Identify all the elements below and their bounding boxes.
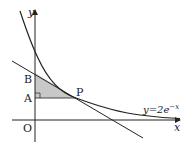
exponential-curve — [20, 11, 180, 119]
point-a-label: A — [23, 92, 33, 105]
x-axis-label: x — [174, 121, 181, 134]
graph-canvas: y x O B A P y=2e−x — [0, 0, 189, 158]
diagram: y x O B A P y=2e−x — [0, 0, 189, 158]
y-axis-label: y — [27, 6, 35, 19]
origin-label: O — [23, 122, 32, 135]
point-p-label: P — [76, 86, 84, 99]
point-b-label: B — [24, 73, 32, 86]
curve-label: y=2e−x — [142, 103, 179, 115]
